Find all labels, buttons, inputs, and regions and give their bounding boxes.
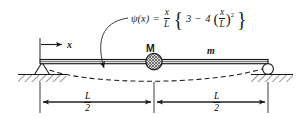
equation-equals-sign: =	[152, 13, 160, 24]
right-ground-hatching	[251, 75, 293, 83]
mode-shape-equation: ψ(x) = x L { 3 − 4 ( x L ) 2 }	[131, 8, 247, 29]
central-mass-M	[146, 53, 162, 69]
right-roller-support	[263, 64, 274, 75]
dim-left-denominator: 2	[84, 103, 91, 113]
equation-coefficient: 4	[205, 13, 210, 24]
left-pinned-support	[35, 63, 50, 75]
equation-function-name: ψ(x)	[131, 13, 149, 24]
x-axis-indicator	[40, 38, 62, 60]
dim-right-denominator: 2	[213, 103, 220, 113]
dim-left-numerator: L	[84, 92, 91, 103]
inner-fraction: x L	[218, 8, 225, 29]
equation-first-term: 3	[186, 13, 191, 24]
x-axis-label: x	[67, 39, 72, 50]
dimension-extension-lines	[40, 82, 268, 113]
inner-fraction-numerator: x	[219, 8, 225, 19]
equation-exponent: 2	[231, 11, 234, 18]
beam-mass-label-m: m	[207, 45, 215, 56]
brace-close: }	[237, 11, 247, 27]
mass-label-M: M	[146, 42, 155, 54]
leading-fraction: x L	[163, 8, 170, 29]
inner-fraction-denominator: L	[218, 19, 225, 29]
dim-right-numerator: L	[213, 92, 220, 103]
dimension-label-left: L 2	[84, 92, 91, 113]
squared-fraction-group: ( x L ) 2	[213, 8, 234, 29]
dimension-label-right: L 2	[213, 92, 220, 113]
leading-fraction-numerator: x	[164, 8, 170, 19]
left-ground-hatching	[18, 75, 66, 83]
brace-open: {	[173, 11, 183, 27]
beam-diagram-figure: ψ(x) = x L { 3 − 4 ( x L ) 2 } x M m L 2	[0, 0, 298, 118]
equation-minus-sign: −	[194, 13, 202, 24]
leading-fraction-denominator: L	[163, 19, 170, 29]
